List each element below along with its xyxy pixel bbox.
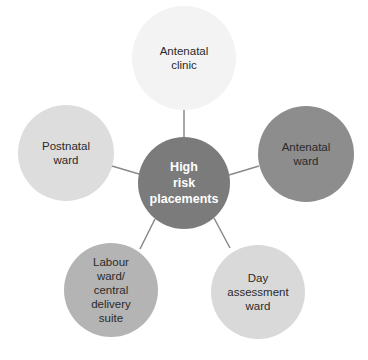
node-day-assessment-ward: Day assessment ward <box>211 245 305 339</box>
node-label: Antenatal clinic <box>160 44 209 72</box>
node-antenatal-ward: Antenatal ward <box>258 106 354 202</box>
connector-antenatal-ward <box>229 166 259 175</box>
connector-postnatal-ward <box>112 166 139 174</box>
center-node-high-risk-placements: High risk placements <box>138 137 230 229</box>
connector-day-assessment-ward <box>214 218 230 248</box>
center-label: High risk placements <box>150 159 219 207</box>
connector-labour-ward <box>140 219 155 249</box>
node-label: Postnatal ward <box>42 139 90 167</box>
node-label: Labour ward/ central delivery suite <box>91 255 131 325</box>
node-postnatal-ward: Postnatal ward <box>18 105 114 201</box>
node-label: Day assessment ward <box>227 271 288 313</box>
node-label: Antenatal ward <box>282 140 331 168</box>
node-labour-ward: Labour ward/ central delivery suite <box>64 243 158 337</box>
node-antenatal-clinic: Antenatal clinic <box>132 6 236 110</box>
